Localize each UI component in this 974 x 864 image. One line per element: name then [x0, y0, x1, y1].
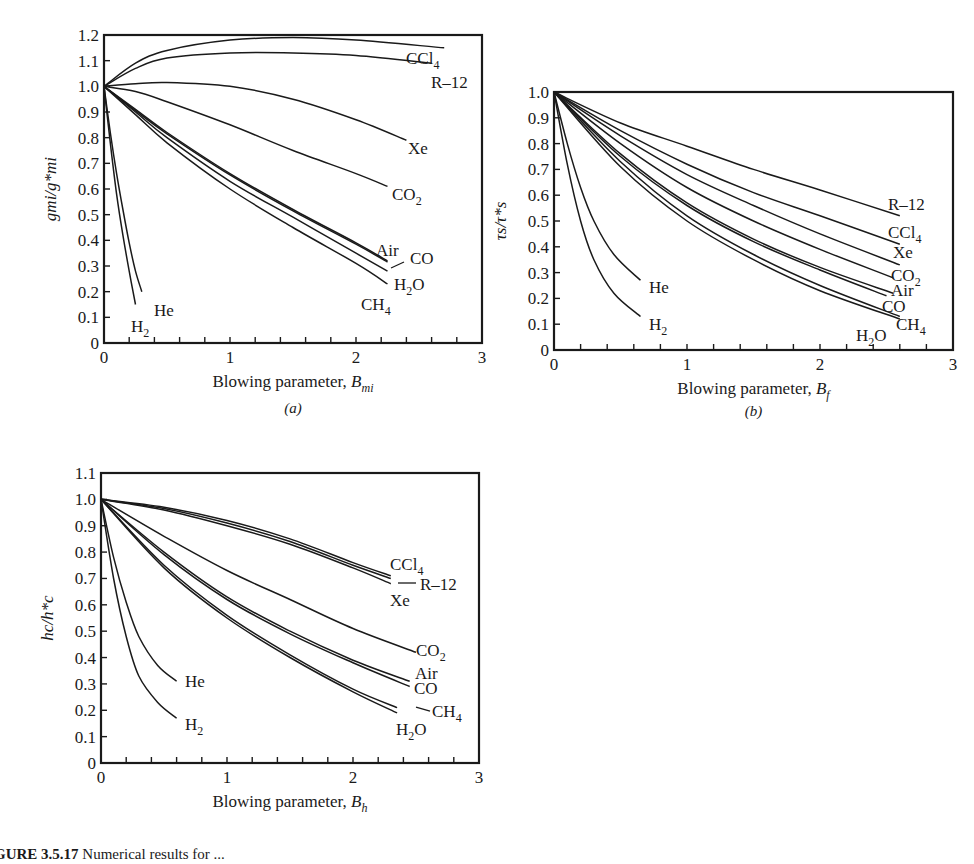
- y-tick-label: 0.2: [528, 289, 549, 308]
- curve-co2: [104, 86, 388, 186]
- y-tick-label: 0.3: [528, 264, 549, 283]
- curve-label-ch4: CH4: [432, 702, 462, 725]
- curve-ch4: [101, 499, 397, 707]
- y-tick-label: 0.8: [528, 135, 549, 154]
- y-tick-label: 0.6: [75, 596, 96, 615]
- curve-label-air: Air: [376, 241, 399, 260]
- x-tick-label: 0: [100, 348, 109, 367]
- curve-label-co: CO: [882, 297, 906, 316]
- y-tick-label: 0.2: [78, 283, 99, 302]
- y-tick-label: 0.9: [528, 109, 549, 128]
- plot-frame: [104, 35, 482, 343]
- y-tick-label: 0.1: [75, 728, 96, 747]
- curve-label-r12: R–12: [420, 575, 457, 594]
- x-tick-label: 2: [816, 355, 825, 374]
- curve-ccl4: [104, 38, 444, 87]
- y-tick-label: 0.5: [78, 206, 99, 225]
- figure-canvas: 012300.10.20.30.40.50.60.70.80.91.01.11.…: [0, 0, 974, 864]
- curve-xe: [104, 82, 406, 140]
- y-tick-label: 0.5: [528, 212, 549, 231]
- x-tick-label: 1: [226, 348, 235, 367]
- label-leader-line: [416, 707, 430, 711]
- y-tick-label: 1.1: [75, 464, 96, 483]
- chart-c-heat-transfer: 012300.10.20.30.40.50.60.70.80.91.01.1Bl…: [38, 464, 483, 815]
- y-axis-label: hc/h*c: [38, 595, 57, 641]
- y-tick-label: 0: [541, 341, 550, 360]
- y-tick-label: 1.0: [528, 83, 549, 102]
- y-tick-label: 0.4: [528, 238, 550, 257]
- curve-label-xe: Xe: [408, 139, 428, 158]
- y-tick-label: 0.6: [78, 180, 99, 199]
- curve-h2o: [104, 86, 388, 271]
- y-tick-label: 1.0: [78, 77, 99, 96]
- curve-label-co: CO: [414, 679, 438, 698]
- y-axis-label: τs/τ*s: [491, 201, 510, 240]
- curve-label-h2: H2: [185, 715, 203, 738]
- curve-label-ch4: CH4: [361, 295, 391, 318]
- curve-air: [104, 86, 388, 261]
- curve-ccl4: [554, 92, 900, 244]
- y-tick-label: 1.0: [75, 490, 96, 509]
- curve-label-ccl4: CCl4: [406, 49, 439, 72]
- curve-xe: [101, 499, 391, 583]
- curve-co: [104, 86, 388, 262]
- y-tick-label: 0: [88, 754, 97, 773]
- curve-label-ccl4: CCl4: [390, 555, 423, 578]
- x-tick-label: 3: [949, 355, 958, 374]
- curve-co2: [101, 499, 416, 652]
- curve-label-xe: Xe: [390, 591, 410, 610]
- curve-label-he: He: [649, 278, 669, 297]
- y-tick-label: 0.9: [75, 517, 96, 536]
- curve-label-r12: R–12: [888, 195, 925, 214]
- x-tick-label: 2: [352, 348, 361, 367]
- y-tick-label: 0.3: [75, 675, 96, 694]
- y-tick-label: 0.9: [78, 103, 99, 122]
- y-tick-label: 0.4: [78, 231, 100, 250]
- curve-label-co: CO: [410, 249, 434, 268]
- y-tick-label: 0.6: [528, 186, 549, 205]
- curve-co2: [554, 92, 893, 278]
- curve-r12: [554, 92, 900, 216]
- y-tick-label: 0.7: [78, 154, 100, 173]
- y-tick-label: 0.3: [78, 257, 99, 276]
- x-tick-label: 1: [683, 355, 692, 374]
- y-tick-label: 1.1: [78, 52, 99, 71]
- y-tick-label: 0.7: [75, 569, 97, 588]
- curve-label-h2o: H2O: [396, 720, 427, 743]
- y-tick-label: 0.4: [75, 649, 97, 668]
- caption-text: Numerical results for ...: [79, 846, 225, 862]
- y-tick-label: 0.7: [528, 160, 550, 179]
- curve-label-h2: H2: [649, 315, 667, 338]
- x-tick-label: 0: [97, 768, 106, 787]
- label-leader-line: [391, 262, 404, 268]
- curve-label-r12: R–12: [431, 73, 468, 92]
- curve-xe: [554, 92, 900, 265]
- panel-label: (b): [745, 403, 763, 420]
- y-tick-label: 0: [91, 334, 100, 353]
- figure-number: GURE 3.5.17: [0, 846, 79, 862]
- curve-label-h2: H2: [131, 317, 149, 340]
- y-tick-label: 0.8: [78, 129, 99, 148]
- curve-co: [554, 92, 887, 296]
- chart-b-shear-stress: 012300.10.20.30.40.50.60.70.80.91.0Blowi…: [491, 83, 957, 420]
- curve-label-h2o: H2O: [856, 326, 887, 349]
- x-axis-label: Blowing parameter, Bmi: [213, 372, 374, 395]
- y-tick-label: 0.2: [75, 701, 96, 720]
- curve-label-xe: Xe: [893, 243, 913, 262]
- panel-label: (a): [284, 400, 302, 417]
- x-axis-label: Blowing parameter, Bh: [213, 792, 368, 815]
- chart-a-mass-transfer: 012300.10.20.30.40.50.60.70.80.91.01.11.…: [41, 26, 486, 417]
- figure-caption: GURE 3.5.17 Numerical results for ...: [0, 846, 225, 863]
- x-tick-label: 3: [475, 768, 484, 787]
- x-tick-label: 3: [478, 348, 487, 367]
- curve-label-ch4: CH4: [896, 315, 926, 338]
- y-axis-label: gmi/g*mi: [41, 157, 60, 222]
- x-tick-label: 0: [550, 355, 559, 374]
- y-tick-label: 1.2: [78, 26, 99, 45]
- x-tick-label: 1: [223, 768, 232, 787]
- curve-he: [101, 499, 177, 681]
- y-tick-label: 0.8: [75, 543, 96, 562]
- curve-label-h2o: H2O: [394, 275, 425, 298]
- x-axis-label: Blowing parameter, Bf: [677, 379, 831, 402]
- curve-label-he: He: [154, 301, 174, 320]
